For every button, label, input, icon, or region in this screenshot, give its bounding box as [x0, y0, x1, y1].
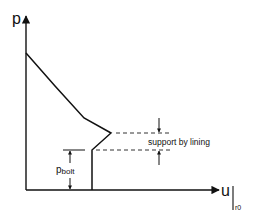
support-by-lining-label: support by lining [148, 137, 210, 147]
y-axis-label: p [12, 10, 21, 27]
bolt-label-sub: bolt [62, 167, 76, 176]
x-axis-subscript: r0 [235, 204, 241, 211]
x-axis-label: u [221, 182, 230, 199]
bolt-label: pbolt [56, 164, 75, 176]
ground-reaction-diagram: p u r0 support by lining pbolt [0, 0, 253, 218]
